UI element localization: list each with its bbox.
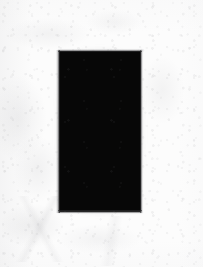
black-rectangle-edge-top bbox=[58, 49, 142, 52]
black-rectangle-edge-right bbox=[140, 50, 143, 213]
black-rectangle-edge-left bbox=[56, 50, 60, 213]
scanned-figure-canvas: Black rectangle on textured paper bbox=[0, 0, 203, 267]
black-rectangle bbox=[59, 51, 141, 212]
black-rectangle-edge-bottom bbox=[58, 210, 142, 213]
black-rectangle-inner-noise bbox=[59, 51, 141, 212]
